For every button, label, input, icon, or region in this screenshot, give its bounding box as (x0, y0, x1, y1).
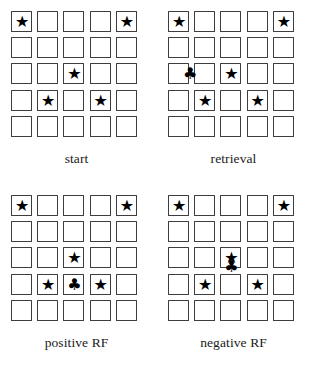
grid-cell[interactable] (273, 221, 294, 242)
grid-cell[interactable] (168, 247, 189, 268)
grid-cell[interactable] (37, 63, 58, 84)
grid-cell[interactable] (168, 63, 189, 84)
grid-cell[interactable] (90, 116, 111, 137)
grid-cell[interactable] (247, 274, 268, 295)
grid-cell[interactable] (194, 221, 215, 242)
grid-cell[interactable] (37, 11, 58, 32)
grid-cell[interactable] (11, 247, 32, 268)
grid-cell[interactable] (168, 300, 189, 321)
grid-cell[interactable] (116, 300, 137, 321)
grid-cell[interactable] (37, 37, 58, 58)
grid-cell[interactable] (116, 221, 137, 242)
grid-cell[interactable] (116, 11, 137, 32)
grid-cell[interactable] (37, 221, 58, 242)
grid-cell[interactable] (90, 274, 111, 295)
grid-cell[interactable] (220, 274, 241, 295)
grid-cell[interactable] (116, 63, 137, 84)
grid-cell[interactable] (63, 63, 84, 84)
grid-cell[interactable] (247, 63, 268, 84)
grid-cell[interactable] (220, 300, 241, 321)
grid-cell[interactable] (168, 11, 189, 32)
grid-cell[interactable] (247, 11, 268, 32)
grid-cell[interactable] (11, 195, 32, 216)
grid-cell[interactable] (90, 90, 111, 111)
grid-cell[interactable] (11, 63, 32, 84)
grid-cell[interactable] (220, 195, 241, 216)
grid-cell[interactable] (90, 63, 111, 84)
grid-cell[interactable] (194, 37, 215, 58)
grid-cell[interactable] (194, 116, 215, 137)
grid-cell[interactable] (194, 11, 215, 32)
grid-cell[interactable] (194, 195, 215, 216)
grid-cell[interactable] (220, 221, 241, 242)
grid-cell[interactable] (194, 63, 215, 84)
grid-cell[interactable] (220, 11, 241, 32)
grid-cell[interactable] (168, 274, 189, 295)
grid-cell[interactable] (273, 195, 294, 216)
grid-cell[interactable] (247, 300, 268, 321)
grid-cell[interactable] (63, 37, 84, 58)
grid-cell[interactable] (247, 37, 268, 58)
grid-cell[interactable] (220, 116, 241, 137)
grid-cell[interactable] (273, 300, 294, 321)
grid-cell[interactable] (90, 195, 111, 216)
grid-cell[interactable] (273, 37, 294, 58)
grid-cell[interactable] (63, 300, 84, 321)
grid-cell[interactable] (116, 247, 137, 268)
grid-cell[interactable] (194, 300, 215, 321)
grid-cell[interactable] (11, 300, 32, 321)
grid-cell[interactable] (37, 116, 58, 137)
grid-cell[interactable] (168, 116, 189, 137)
grid-cell[interactable] (220, 90, 241, 111)
grid-cell[interactable] (273, 274, 294, 295)
grid-cell[interactable] (247, 195, 268, 216)
grid-cell[interactable] (90, 247, 111, 268)
grid-cell[interactable] (116, 195, 137, 216)
grid-cell[interactable] (247, 221, 268, 242)
grid-cell[interactable] (37, 195, 58, 216)
grid-cell[interactable] (63, 247, 84, 268)
grid-cell[interactable] (116, 90, 137, 111)
grid-cell[interactable] (37, 90, 58, 111)
grid-cell[interactable] (11, 37, 32, 58)
grid-cell[interactable] (220, 37, 241, 58)
grid-cell[interactable] (168, 195, 189, 216)
grid-cell[interactable] (11, 11, 32, 32)
grid-cell[interactable] (37, 247, 58, 268)
grid-cell[interactable] (168, 221, 189, 242)
grid-cell[interactable] (63, 90, 84, 111)
grid-cell[interactable] (63, 195, 84, 216)
grid-cell[interactable] (11, 90, 32, 111)
grid-cell[interactable] (116, 37, 137, 58)
grid-cell[interactable] (90, 300, 111, 321)
grid-cell[interactable] (273, 63, 294, 84)
grid-cell[interactable] (194, 247, 215, 268)
grid-cell[interactable] (63, 221, 84, 242)
grid-cell[interactable] (116, 274, 137, 295)
grid-cell[interactable] (247, 247, 268, 268)
grid-cell[interactable] (11, 274, 32, 295)
grid-cell[interactable] (168, 37, 189, 58)
grid-cell[interactable] (37, 300, 58, 321)
grid-cell[interactable] (37, 274, 58, 295)
grid-cell[interactable] (90, 11, 111, 32)
grid-cell[interactable] (11, 221, 32, 242)
grid-cell[interactable] (11, 116, 32, 137)
grid-cell[interactable] (116, 116, 137, 137)
grid-cell[interactable] (194, 274, 215, 295)
grid-cell[interactable] (273, 116, 294, 137)
grid-cell[interactable] (168, 90, 189, 111)
grid-cell[interactable] (273, 247, 294, 268)
grid-cell[interactable] (90, 221, 111, 242)
grid-cell[interactable] (220, 247, 241, 268)
grid-cell[interactable] (273, 90, 294, 111)
grid-cell[interactable] (63, 274, 84, 295)
grid-cell[interactable] (90, 37, 111, 58)
grid-cell[interactable] (247, 90, 268, 111)
grid-cell[interactable] (194, 90, 215, 111)
grid-cell[interactable] (273, 11, 294, 32)
grid-cell[interactable] (247, 116, 268, 137)
grid-cell[interactable] (63, 116, 84, 137)
grid-cell[interactable] (63, 11, 84, 32)
grid-cell[interactable] (220, 63, 241, 84)
